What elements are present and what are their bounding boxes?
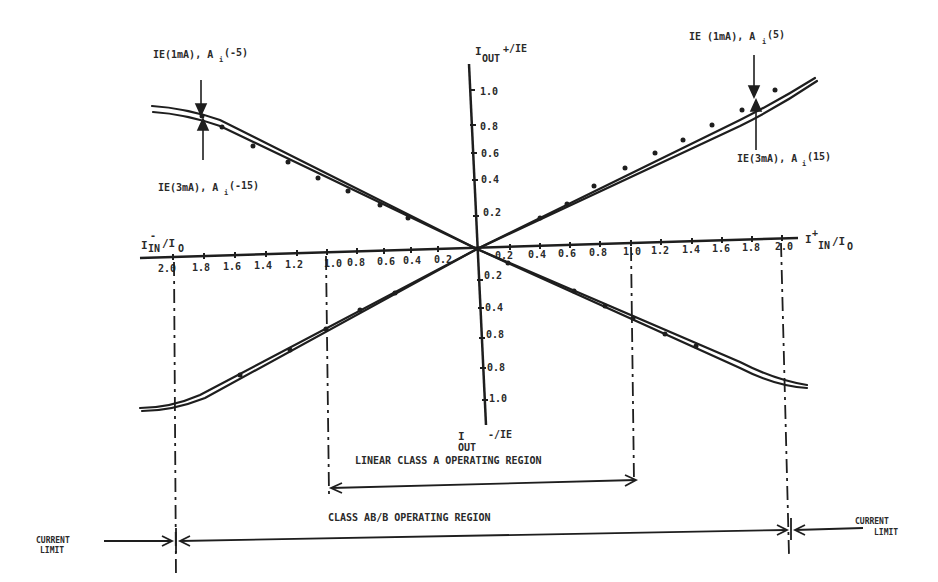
tick-label: 0.8 [589, 247, 607, 258]
axis-label-tail-sub: O [847, 241, 853, 252]
tick-label: 0.6 [481, 148, 499, 159]
axis-label-sub: OUT [482, 53, 500, 64]
annotation-sub: i [224, 189, 228, 197]
axis-label-sup: - [150, 230, 156, 241]
tick-label: 1.0 [489, 393, 507, 404]
annotation-tail: (-5) [224, 47, 248, 58]
tick-label: 1.4 [254, 260, 272, 271]
tick-label: 0.8 [347, 257, 365, 268]
linear-region-arrow [331, 475, 636, 493]
linear-region-label: LINEAR CLASS A OPERATING REGION [355, 455, 542, 466]
tick-label: 0.4 [485, 302, 503, 313]
annotation-text: IE (1mA), A [689, 31, 755, 42]
axis-label-tail: /I [832, 235, 845, 248]
annotation-ie1ma-pos: IE (1mA), A i (5) [689, 29, 785, 46]
tick-label: 1.4 [682, 244, 700, 255]
tick-label: 1.2 [285, 259, 303, 270]
annotation-sub: i [802, 160, 806, 168]
tick-label: 0.2 [484, 270, 502, 281]
tick-label: 0.4 [481, 174, 499, 185]
tick-label: 0.4 [528, 249, 546, 260]
tick-label: 1.0 [480, 86, 498, 97]
tick-label: 2.0 [775, 241, 793, 252]
axis-label-sub: IN [818, 240, 830, 251]
axis-label: I [805, 233, 812, 246]
tick-label: 1.8 [742, 242, 760, 253]
annotation-text: IE(3mA), A [158, 182, 218, 193]
axis-label-sub: IN [148, 243, 160, 254]
tick-label: 1.6 [223, 261, 241, 272]
current-limit-text: CURRENT [855, 517, 889, 526]
current-limit-right: CURRENT LIMIT [855, 517, 898, 537]
tick-label: 1.2 [651, 245, 669, 256]
annotation-ie3ma-pos: IE(3mA), A i (15) [737, 151, 831, 168]
curve-lower-left-ie1ma [140, 249, 477, 408]
annotation-text: IE(1mA), A [153, 49, 213, 60]
annotation-tail: (5) [767, 29, 785, 40]
current-limit-text: LIMIT [40, 546, 64, 555]
axis-label-sub: OUT [458, 442, 476, 453]
annotation-text: IE(3mA), A [737, 153, 797, 164]
tick-label: 1.6 [712, 243, 730, 254]
y-axis-label-positive: I OUT +/IE [475, 43, 527, 64]
tick-label: 0.6 [558, 248, 576, 259]
current-limit-text: LIMIT [874, 528, 898, 537]
annotation-arrows [196, 55, 761, 160]
axis-label-sup: + [812, 227, 818, 238]
tick-label: 0.4 [403, 255, 421, 266]
y-axis-label-negative: I OUT -/IE [458, 429, 512, 453]
annotation-tail: (15) [807, 151, 831, 162]
annotation-tail: (-15) [229, 180, 259, 191]
transfer-characteristic-chart: 2.0 1.8 1.6 1.4 1.2 1.0 0.8 0.6 0.4 0.2 … [0, 0, 938, 582]
curve-lower-right-ie1ma [477, 249, 807, 385]
curve-neg-upper-ie3ma [153, 112, 477, 249]
axis-label: I [141, 239, 148, 252]
axis-label-tail: /I [162, 237, 175, 250]
annotation-ie3ma-neg: IE(3mA), A i (-15) [158, 180, 259, 197]
abb-region-label: CLASS AB/B OPERATING REGION [328, 512, 491, 523]
x-axis-label-negative: I - IN /I O [141, 230, 184, 254]
tick-label: 1.8 [192, 262, 210, 273]
curve-lower-left-ie3ma [142, 249, 477, 411]
y-tick-labels-positive: 1.0 0.8 0.6 0.4 0.2 [480, 86, 501, 218]
current-limit-text: CURRENT [36, 536, 70, 545]
current-limit-left: CURRENT LIMIT [36, 536, 70, 555]
axis-label-tail: +/IE [503, 43, 527, 54]
region-boundaries [174, 243, 789, 578]
annotation-sub: i [762, 38, 766, 46]
annotation-sub: i [219, 56, 223, 64]
axis-label-tail: -/IE [488, 429, 512, 440]
y-axis [469, 64, 486, 425]
tick-label: 0.8 [480, 121, 498, 132]
y-tick-labels-negative: 0.2 0.4 0.8 0.8 1.0 [484, 270, 507, 404]
x-axis-label-positive: I + IN /I O [805, 227, 853, 252]
tick-label: 0.6 [377, 256, 395, 267]
annotation-ie1ma-neg: IE(1mA), A i (-5) [153, 47, 248, 64]
tick-label: 0.8 [487, 362, 505, 373]
tick-label: 0.2 [483, 207, 501, 218]
tick-label: 0.8 [486, 329, 504, 340]
tick-label: 1.0 [623, 246, 641, 257]
axis-label: I [475, 45, 482, 58]
abb-region-arrow [104, 518, 863, 553]
axis-label-tail-sub: O [178, 243, 184, 254]
